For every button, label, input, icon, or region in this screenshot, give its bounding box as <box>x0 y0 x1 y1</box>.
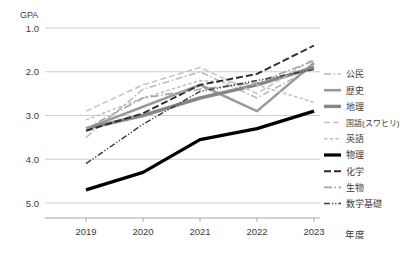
gpa-line-chart: 1.02.03.04.05.0 20192020202120222023 公民歴… <box>0 0 406 253</box>
series-line-物理 <box>86 111 314 190</box>
legend-label-化学: 化学 <box>346 166 364 177</box>
y-tick-label: 1.0 <box>26 23 39 34</box>
legend-label-地理: 地理 <box>346 101 364 112</box>
x-tick-label: 2019 <box>75 226 96 237</box>
chart-canvas: 1.02.03.04.05.0 20192020202120222023 公民歴… <box>0 0 406 253</box>
legend-label-数学基礎: 数学基礎 <box>346 198 382 209</box>
legend-label-公民: 公民 <box>346 69 364 79</box>
y-axis-tick-labels: 1.02.03.04.05.0 <box>26 23 39 209</box>
series-lines <box>86 46 314 190</box>
y-tick-label: 2.0 <box>26 66 39 77</box>
gridlines <box>45 28 320 203</box>
legend-label-歴史: 歴史 <box>346 85 364 96</box>
legend: 公民歴史地理国語(スワヒリ)英語物理化学生物数学基礎 <box>324 69 400 209</box>
x-tick-label: 2020 <box>132 226 153 237</box>
legend-label-生物: 生物 <box>346 182 364 193</box>
x-axis-tick-labels: 20192020202120222023 <box>75 226 324 237</box>
y-tick-label: 3.0 <box>26 110 39 121</box>
y-tick-label: 5.0 <box>26 198 39 209</box>
legend-label-物理: 物理 <box>346 149 364 160</box>
legend-label-英語: 英語 <box>346 133 364 144</box>
x-tick-label: 2021 <box>189 226 210 237</box>
y-tick-label: 4.0 <box>26 154 39 165</box>
x-tick-label: 2023 <box>303 226 324 237</box>
x-axis-ticks <box>86 218 314 222</box>
y-axis-unit-label: GPA <box>20 10 38 20</box>
legend-label-国語(スワヒリ): 国語(スワヒリ) <box>346 118 400 128</box>
x-axis-unit-label: 年度 <box>345 229 365 240</box>
x-tick-label: 2022 <box>246 226 267 237</box>
series-line-化学 <box>86 46 314 131</box>
